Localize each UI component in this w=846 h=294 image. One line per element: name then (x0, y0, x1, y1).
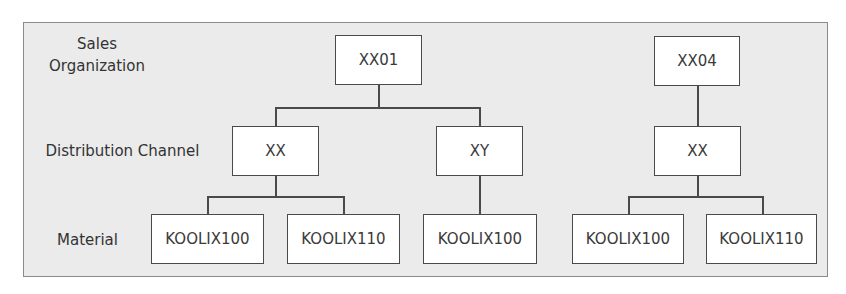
sales-org-node-xx01: XX01 (335, 35, 422, 85)
connector (479, 176, 481, 214)
channel-node-xx01-xx: XX (232, 126, 319, 176)
connector (207, 196, 209, 214)
material-node: KOOLIX100 (572, 214, 684, 264)
connector (275, 107, 277, 126)
connector (628, 196, 630, 214)
connector (479, 107, 481, 126)
level-label-material: Material (45, 229, 130, 251)
connector (343, 196, 345, 214)
connector (628, 196, 763, 198)
connector (762, 196, 764, 214)
sales-org-label-line1: Sales (42, 33, 152, 55)
sales-org-label-line2: Organization (42, 55, 152, 77)
level-label-sales-organization: Sales Organization (42, 33, 152, 77)
connector (697, 86, 699, 126)
connector (378, 84, 380, 107)
connector (275, 176, 277, 196)
material-node: KOOLIX110 (287, 214, 400, 264)
sales-org-node-xx04: XX04 (654, 36, 740, 86)
connector (697, 176, 699, 196)
material-node: KOOLIX100 (151, 214, 264, 264)
connector (275, 107, 480, 109)
connector (207, 196, 344, 198)
channel-node-xx01-xy: XY (436, 126, 523, 176)
material-node: KOOLIX110 (706, 214, 817, 264)
material-node: KOOLIX100 (423, 214, 537, 264)
level-label-distribution-channel: Distribution Channel (30, 140, 215, 162)
channel-node-xx04-xx: XX (654, 126, 741, 176)
